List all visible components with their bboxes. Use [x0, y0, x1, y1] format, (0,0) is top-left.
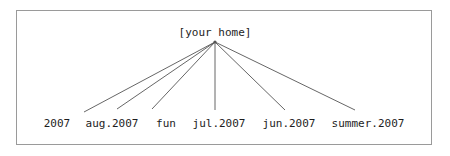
leaf-node-label: fun [156, 118, 176, 130]
root-node-label: [your home] [179, 27, 252, 39]
leaf-node-label: jun.2007 [263, 118, 316, 130]
diagram-canvas: [your home] 2007aug.2007funjul.2007jun.2… [0, 0, 450, 156]
leaf-node-label: jul.2007 [193, 118, 246, 130]
leaf-node-label: aug.2007 [86, 118, 139, 130]
leaf-node-label: summer.2007 [332, 118, 405, 130]
leaf-node-label: 2007 [44, 118, 71, 130]
